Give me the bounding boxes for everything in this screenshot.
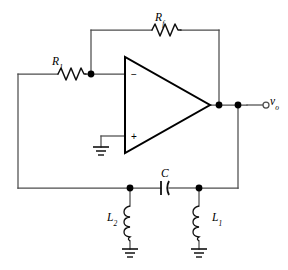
- resistor-rf: [152, 24, 181, 36]
- node-opamp-output: [216, 102, 223, 109]
- label-r1: R1: [52, 56, 63, 68]
- node-inverting-input: [88, 71, 95, 78]
- opamp: − +: [125, 57, 210, 153]
- opamp-noninverting-sign: +: [131, 131, 137, 142]
- circuit-diagram: − +: [0, 0, 288, 270]
- inductor-l1: [193, 206, 199, 241]
- label-c: C: [161, 168, 169, 180]
- ground-opamp: [93, 147, 109, 155]
- ground-l1: [191, 249, 207, 257]
- inductor-l2: [124, 206, 130, 241]
- capacitor-c: [161, 181, 169, 195]
- label-vo: vo: [270, 96, 279, 108]
- terminal-vo: [263, 102, 269, 108]
- label-l1: L1: [212, 212, 222, 224]
- circuit-schematic-svg: − +: [0, 0, 288, 270]
- label-l2: L2: [107, 212, 117, 224]
- node-tank-right: [196, 185, 203, 192]
- label-rf: Rf: [155, 12, 164, 24]
- ground-l2: [122, 249, 138, 257]
- node-output-tap: [235, 102, 242, 109]
- node-tank-left: [127, 185, 134, 192]
- opamp-inverting-sign: −: [131, 69, 137, 80]
